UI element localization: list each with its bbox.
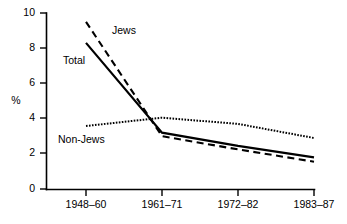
series-line-jews bbox=[86, 22, 314, 162]
y-tick-label-10: 10 bbox=[23, 6, 35, 18]
y-tick-label-8: 8 bbox=[29, 41, 35, 53]
series-label-non-jews: Non-Jews bbox=[58, 133, 105, 145]
series-line-total bbox=[86, 43, 314, 157]
series-label-jews: Jews bbox=[112, 24, 136, 36]
x-tick-label-3: 1972–82 bbox=[218, 198, 259, 210]
y-axis-title: % bbox=[11, 94, 20, 106]
y-axis-ticks: 10 8 6 4 2 0 bbox=[23, 6, 46, 194]
y-tick-label-6: 6 bbox=[29, 76, 35, 88]
x-tick-label-4: 1983–87 bbox=[294, 198, 335, 210]
y-tick-label-2: 2 bbox=[29, 146, 35, 158]
x-tick-label-2: 1961–71 bbox=[142, 198, 183, 210]
x-axis-ticks: 1948–60 1961–71 1972–82 1983–87 bbox=[66, 190, 335, 211]
chart-canvas: 10 8 6 4 2 0 % 1948–60 1961–71 1972–82 1… bbox=[0, 0, 347, 224]
y-tick-label-4: 4 bbox=[29, 111, 35, 123]
series-label-total: Total bbox=[63, 54, 85, 66]
x-tick-label-1: 1948–60 bbox=[66, 198, 107, 210]
line-chart: 10 8 6 4 2 0 % 1948–60 1961–71 1972–82 1… bbox=[0, 0, 347, 224]
series-line-non-jews bbox=[86, 118, 314, 138]
y-tick-label-0: 0 bbox=[29, 182, 35, 194]
